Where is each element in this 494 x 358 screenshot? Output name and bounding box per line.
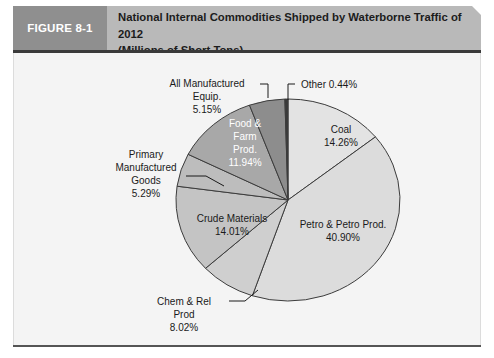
figure-title-line-1: National Internal Commodities Shipped by… — [118, 9, 470, 42]
figure-number-label: FIGURE 8-1 — [27, 22, 92, 34]
figure-bottom-rule — [13, 345, 481, 347]
figure-number-badge: FIGURE 8-1 — [13, 6, 107, 50]
figure-body-panel — [13, 53, 481, 346]
figure-panel: FIGURE 8-1 National Internal Commodities… — [0, 0, 494, 358]
